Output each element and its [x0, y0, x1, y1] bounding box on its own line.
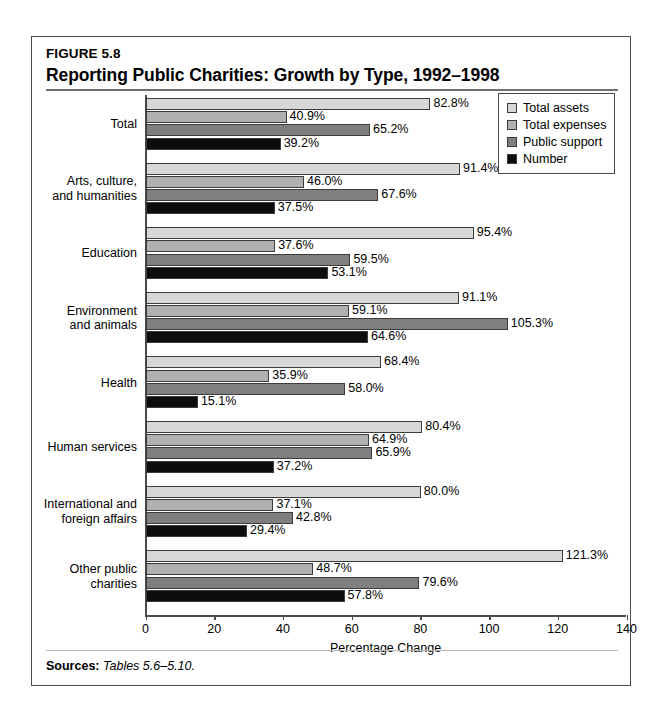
bar[interactable] [146, 138, 281, 150]
bar[interactable] [146, 254, 350, 266]
bar-row: 68.4% [146, 356, 656, 368]
bar[interactable] [146, 240, 275, 252]
sources-text: Tables 5.6–5.10. [103, 659, 195, 673]
x-tick-mark [558, 615, 560, 620]
bar-row: 37.2% [146, 461, 656, 473]
bar[interactable] [146, 577, 419, 589]
legend-item[interactable]: Total expenses [507, 117, 608, 133]
bar[interactable] [146, 447, 372, 459]
bar-group: Other publiccharities121.3%48.7%79.6%57.… [32, 550, 632, 603]
legend-item[interactable]: Total assets [507, 100, 608, 116]
bar-value-label: 57.8% [348, 588, 383, 603]
bar[interactable] [146, 525, 247, 537]
x-tick-label: 0 [142, 622, 149, 636]
bar-row: 58.0% [146, 383, 656, 395]
bar-row: 42.8% [146, 512, 656, 524]
chart-plot-area: 020406080100120140 Total82.8%40.9%65.2%3… [32, 95, 632, 625]
category-label-line: Other public [32, 562, 137, 577]
x-tick-mark [352, 615, 354, 620]
bar-value-label: 37.2% [277, 459, 312, 474]
x-tick-mark [489, 615, 491, 620]
bar[interactable] [146, 292, 459, 304]
bar[interactable] [146, 331, 368, 343]
bar[interactable] [146, 111, 287, 123]
category-label-line: charities [32, 577, 137, 592]
bar[interactable] [146, 176, 304, 188]
category-label-line: Education [32, 246, 137, 261]
legend-item[interactable]: Public support [507, 134, 608, 150]
category-label-line: Total [32, 117, 137, 132]
bar-value-label: 58.0% [348, 381, 383, 396]
bar-value-label: 29.4% [250, 523, 285, 538]
bar-row: 29.4% [146, 525, 656, 537]
bar[interactable] [146, 486, 421, 498]
bar-value-label: 46.0% [307, 174, 342, 189]
title-divider [46, 89, 618, 91]
x-tick-label: 60 [345, 622, 359, 636]
bar-row: 65.9% [146, 447, 656, 459]
bar[interactable] [146, 189, 378, 201]
bar-row: 95.4% [146, 227, 656, 239]
bar-value-label: 65.2% [373, 122, 408, 137]
bar[interactable] [146, 383, 345, 395]
category-label-line: Human services [32, 440, 137, 455]
bar[interactable] [146, 305, 349, 317]
bar-row: 37.6% [146, 240, 656, 252]
bar[interactable] [146, 370, 269, 382]
bar-value-label: 80.0% [424, 484, 459, 499]
bar[interactable] [146, 461, 274, 473]
bar[interactable] [146, 318, 508, 330]
bar-value-label: 82.8% [433, 96, 468, 111]
bar[interactable] [146, 356, 381, 368]
bar-group: International andforeign affairs80.0%37.… [32, 486, 632, 539]
bar-value-label: 65.9% [375, 445, 410, 460]
bar-value-label: 95.4% [477, 225, 512, 240]
bar[interactable] [146, 421, 422, 433]
category-label-line: Environment [32, 304, 137, 319]
bar-group: Environmentand animals91.1%59.1%105.3%64… [32, 292, 632, 345]
bar-row: 64.9% [146, 434, 656, 446]
bar[interactable] [146, 396, 198, 408]
category-label: Human services [32, 440, 137, 455]
bar[interactable] [146, 590, 345, 602]
x-tick-label: 100 [479, 622, 500, 636]
bar-row: 64.6% [146, 331, 656, 343]
bar-value-label: 39.2% [284, 136, 319, 151]
category-label: Environmentand animals [32, 304, 137, 333]
x-tick-label: 120 [547, 622, 568, 636]
bar-value-label: 42.8% [296, 510, 331, 525]
bar-row: 35.9% [146, 370, 656, 382]
bar-value-label: 37.5% [278, 200, 313, 215]
bar-row: 59.5% [146, 254, 656, 266]
x-tick-mark [146, 615, 148, 620]
bar-value-label: 121.3% [566, 548, 608, 563]
bar[interactable] [146, 267, 328, 279]
category-label-line: and humanities [32, 189, 137, 204]
bar[interactable] [146, 499, 273, 511]
x-tick-mark [420, 615, 422, 620]
bar-row: 59.1% [146, 305, 656, 317]
figure-number: FIGURE 5.8 [46, 45, 618, 63]
bar[interactable] [146, 227, 474, 239]
legend-label: Total assets [523, 101, 589, 115]
bar[interactable] [146, 98, 430, 110]
bar[interactable] [146, 434, 369, 446]
bar-row: 46.0% [146, 176, 656, 188]
bar-value-label: 80.4% [425, 419, 460, 434]
category-label: Health [32, 376, 137, 391]
bar-value-label: 35.9% [272, 368, 307, 383]
bar-row: 53.1% [146, 267, 656, 279]
legend-item[interactable]: Number [507, 151, 608, 167]
bar[interactable] [146, 124, 370, 136]
category-label: International andforeign affairs [32, 497, 137, 526]
x-tick-label: 20 [207, 622, 221, 636]
bar[interactable] [146, 550, 563, 562]
bar[interactable] [146, 563, 313, 575]
bar[interactable] [146, 163, 460, 175]
bar-group: Health68.4%35.9%58.0%15.1% [32, 356, 632, 409]
bar-value-label: 68.4% [384, 354, 419, 369]
x-tick-mark [627, 615, 629, 620]
bar[interactable] [146, 512, 293, 524]
figure-title: Reporting Public Charities: Growth by Ty… [46, 64, 618, 86]
bar[interactable] [146, 202, 275, 214]
